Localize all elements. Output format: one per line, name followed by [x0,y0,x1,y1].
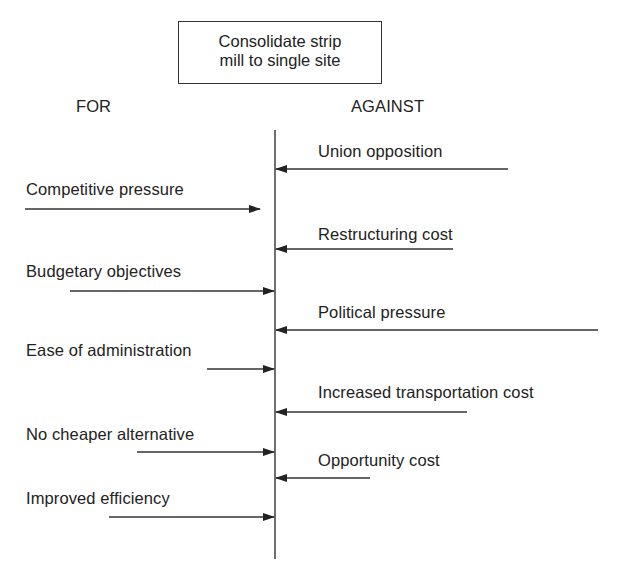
for-force-label: Improved efficiency [26,489,170,508]
for-force-label: Ease of administration [26,341,191,360]
for-force-label: No cheaper alternative [26,425,194,444]
against-force-label: Political pressure [318,303,445,322]
against-force-label: Increased transportation cost [318,383,534,402]
for-force-label: Competitive pressure [26,180,184,199]
against-force-label: Union opposition [318,142,443,161]
against-force-label: Opportunity cost [318,451,440,470]
against-force-label: Restructuring cost [318,225,453,244]
for-force-label: Budgetary objectives [26,262,181,281]
